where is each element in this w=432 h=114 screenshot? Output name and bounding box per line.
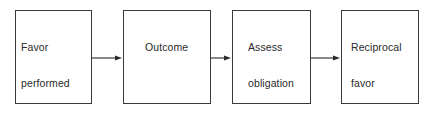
- box-favor-performed-text: Favor performed Tanaka→Sato: [21, 16, 88, 114]
- box-outcome-text: Outcome: [145, 16, 188, 77]
- box-reciprocal-favor-line-2: favor: [351, 77, 418, 89]
- box-assess-obligation-text: Assess obligation of Sato (Tanaka + Sato…: [248, 16, 295, 114]
- box-assess-obligation-line-1: Assess: [248, 41, 295, 53]
- box-outcome-line-1: Outcome: [145, 41, 188, 53]
- box-reciprocal-favor: Reciprocal favor performed Sato→Tanaka: [341, 10, 419, 104]
- arrow-outcome-to-assess: [210, 57, 232, 59]
- box-favor-performed: Favor performed Tanaka→Sato: [15, 10, 92, 104]
- arrow-right-icon: [310, 57, 341, 59]
- arrow-favor-to-outcome: [91, 57, 123, 59]
- box-outcome: Outcome: [123, 10, 211, 104]
- box-assess-obligation-line-2: obligation: [248, 77, 295, 89]
- box-assess-obligation: Assess obligation of Sato (Tanaka + Sato…: [232, 10, 311, 104]
- box-reciprocal-favor-text: Reciprocal favor performed Sato→Tanaka: [351, 16, 418, 114]
- arrow-assess-to-reciprocal: [310, 57, 341, 59]
- box-favor-performed-line-2: performed: [21, 77, 88, 89]
- box-reciprocal-favor-line-1: Reciprocal: [351, 41, 418, 53]
- box-favor-performed-line-1: Favor: [21, 41, 88, 53]
- arrow-right-icon: [91, 57, 123, 59]
- arrow-right-icon: [210, 57, 232, 59]
